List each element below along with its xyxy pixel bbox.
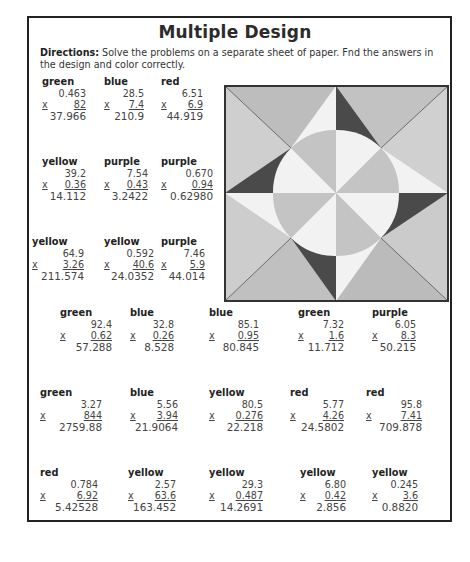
multiplier: 3.26: [63, 259, 84, 271]
multiplier: 0.276: [236, 410, 263, 422]
times-sign: x: [298, 330, 304, 342]
math-problem: red5.77x4.2624.5802: [290, 387, 344, 433]
multiplicand: 0.463: [42, 88, 86, 100]
multiplicand: 28.5: [104, 88, 144, 100]
product: 44.014: [161, 271, 205, 283]
multiplier-row: x3.26: [32, 259, 84, 271]
multiplier-row: x7.41: [366, 410, 422, 422]
times-sign: x: [161, 259, 167, 271]
answer-color: red: [40, 467, 98, 479]
math-problem: green3.27x8442759.88: [40, 387, 102, 433]
product: 11.712: [298, 342, 344, 354]
multiplicand: 6.51: [161, 88, 203, 100]
math-problem: green92.4x0.6257.288: [60, 307, 112, 353]
times-sign: x: [128, 490, 134, 502]
multiplier: 6.9: [188, 99, 203, 111]
product: 14.112: [42, 191, 86, 203]
math-problem: red0.784x6.925.42528: [40, 467, 98, 513]
math-problem: yellow64.9x3.26211.574: [32, 236, 84, 282]
multiplier: 3.6: [403, 490, 418, 502]
times-sign: x: [209, 410, 215, 422]
multiplier-row: x3.6: [372, 490, 418, 502]
multiplier: 7.41: [401, 410, 422, 422]
times-sign: x: [40, 410, 46, 422]
answer-color: yellow: [300, 467, 346, 479]
multiplier: 3.94: [157, 410, 178, 422]
times-sign: x: [60, 330, 66, 342]
times-sign: x: [40, 490, 46, 502]
answer-color: blue: [104, 76, 144, 88]
math-problem: purple6.05x8.350.215: [372, 307, 416, 353]
multiplier-row: x63.6: [128, 490, 176, 502]
math-problem: green7.32x1.611.712: [298, 307, 344, 353]
answer-color: yellow: [42, 156, 86, 168]
answer-color: green: [298, 307, 344, 319]
answer-color: red: [161, 76, 203, 88]
answer-color: yellow: [209, 387, 263, 399]
multiplicand: 7.32: [298, 319, 344, 331]
answer-color: yellow: [32, 236, 84, 248]
answer-color: blue: [130, 307, 174, 319]
math-problem: yellow39.2x0.3614.112: [42, 156, 86, 202]
multiplier-row: x4.26: [290, 410, 344, 422]
product: 211.574: [32, 271, 84, 283]
math-problem: yellow29.3x0.48714.2691: [209, 467, 263, 513]
product: 2.856: [300, 502, 346, 514]
multiplier: 0.43: [127, 179, 148, 191]
product: 5.42528: [40, 502, 98, 514]
product: 14.2691: [209, 502, 263, 514]
math-problem: blue5.56x3.9421.9064: [130, 387, 178, 433]
multiplier-row: x3.94: [130, 410, 178, 422]
multiplicand: 0.245: [372, 479, 418, 491]
multiplier: 0.36: [65, 179, 86, 191]
multiplier-row: x844: [40, 410, 102, 422]
math-problem: purple7.54x0.433.2422: [104, 156, 148, 202]
multiplier: 0.95: [238, 330, 259, 342]
multiplicand: 80.5: [209, 399, 263, 411]
product: 24.5802: [290, 422, 344, 434]
multiplier-row: x0.62: [60, 330, 112, 342]
multiplier: 63.6: [155, 490, 176, 502]
multiplicand: 3.27: [40, 399, 102, 411]
times-sign: x: [130, 330, 136, 342]
multiplicand: 0.670: [161, 168, 213, 180]
answer-color: green: [60, 307, 112, 319]
math-problem: purple7.46x5.944.014: [161, 236, 205, 282]
product: 80.845: [209, 342, 259, 354]
product: 22.218: [209, 422, 263, 434]
multiplier: 0.94: [192, 179, 213, 191]
math-problem: green0.463x8237.966: [42, 76, 86, 122]
multiplier: 4.26: [323, 410, 344, 422]
product: 2759.88: [40, 422, 102, 434]
multiplier: 6.92: [77, 490, 98, 502]
times-sign: x: [161, 179, 167, 191]
center-circle: [273, 130, 399, 256]
multiplier: 40.6: [133, 259, 154, 271]
product: 37.966: [42, 111, 86, 123]
math-problem: purple0.670x0.940.62980: [161, 156, 213, 202]
multiplier-row: x0.95: [209, 330, 259, 342]
answer-color: green: [42, 76, 86, 88]
worksheet-title: Multiple Design: [0, 22, 470, 42]
multiplier-row: x0.43: [104, 179, 148, 191]
product: 44.919: [161, 111, 203, 123]
multiplicand: 29.3: [209, 479, 263, 491]
multiplicand: 2.57: [128, 479, 176, 491]
times-sign: x: [42, 99, 48, 111]
math-problem: yellow0.592x40.624.0352: [104, 236, 154, 282]
multiplicand: 7.46: [161, 248, 205, 260]
times-sign: x: [209, 490, 215, 502]
multiplicand: 5.77: [290, 399, 344, 411]
multiplier-row: x0.94: [161, 179, 213, 191]
math-problem: red95.8x7.41709.878: [366, 387, 422, 433]
multiplier: 1.6: [329, 330, 344, 342]
math-problem: yellow6.80x0.422.856: [300, 467, 346, 513]
product: 57.288: [60, 342, 112, 354]
product: 0.8820: [372, 502, 418, 514]
multiplier-row: x6.9: [161, 99, 203, 111]
multiplier: 844: [84, 410, 102, 422]
product: 163.452: [128, 502, 176, 514]
product: 3.2422: [104, 191, 148, 203]
multiplier: 0.487: [236, 490, 263, 502]
answer-color: red: [290, 387, 344, 399]
